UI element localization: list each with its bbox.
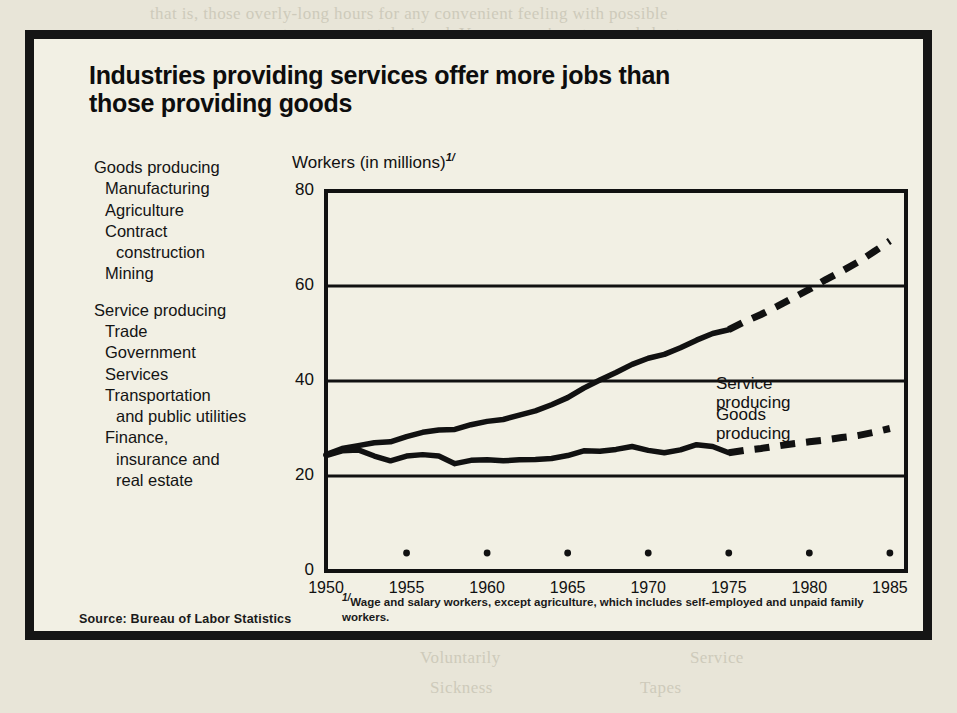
series-line-service xyxy=(326,330,729,455)
axis-marker-dot xyxy=(403,550,410,557)
footnote-text: Wage and salary workers, except agricult… xyxy=(342,596,864,623)
axis-marker-dot xyxy=(725,550,732,557)
bleedthrough-text: that is, those overly-long hours for any… xyxy=(150,4,668,24)
bleedthrough-text: Voluntarily xyxy=(420,648,501,668)
y-axis-tick-label: 80 xyxy=(280,180,314,200)
series-label-goods-line2: producing xyxy=(716,424,791,444)
series-line-goods xyxy=(326,445,729,464)
axis-marker-dot xyxy=(484,550,491,557)
bleedthrough-text: Sickness xyxy=(430,678,493,698)
series-label-goods-line1: Goods xyxy=(716,405,791,425)
bleedthrough-text: Tapes xyxy=(640,678,681,698)
y-axis-tick-label: 20 xyxy=(280,465,314,485)
source-line: Source: Bureau of Labor Statistics xyxy=(79,612,291,626)
y-axis-tick-label: 0 xyxy=(280,560,314,580)
axis-marker-dot xyxy=(886,550,893,557)
axis-marker-dot xyxy=(806,550,813,557)
series-label-goods: Goodsproducing xyxy=(716,405,791,444)
line-chart-svg xyxy=(34,39,941,649)
chart-plot-area: 0204060801950195519601965197019751980198… xyxy=(34,39,941,649)
y-axis-tick-label: 60 xyxy=(280,275,314,295)
chart-footnote: 1/Wage and salary workers, except agricu… xyxy=(342,591,887,625)
series-label-service-line1: Service xyxy=(716,374,791,394)
axis-marker-dot xyxy=(645,550,652,557)
bleedthrough-text: Service xyxy=(690,648,744,668)
axis-marker-dot xyxy=(564,550,571,557)
figure-frame: Industries providing services offer more… xyxy=(25,30,932,640)
y-axis-tick-label: 40 xyxy=(280,370,314,390)
